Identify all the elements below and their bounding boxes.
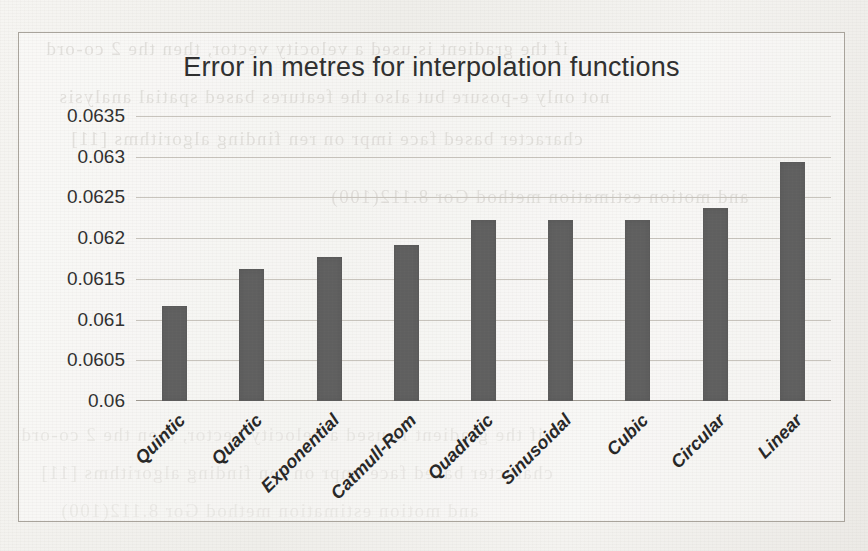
chart-frame: Error in metres for interpolation functi…: [18, 32, 845, 522]
bar: [162, 306, 187, 401]
y-axis-tick-label: 0.061: [77, 309, 125, 331]
x-axis-category-label: Quadratic: [424, 410, 498, 484]
bar-slot: Quartic: [213, 116, 290, 401]
y-axis-tick-label: 0.0605: [67, 349, 125, 371]
bar: [625, 220, 650, 401]
bar: [239, 269, 264, 401]
bar: [703, 208, 728, 401]
bar-slot: Catmull-Rom: [368, 116, 445, 401]
y-axis-tick-label: 0.06: [88, 390, 125, 412]
bar-slot: Cubic: [599, 116, 676, 401]
y-axis-tick-label: 0.0615: [67, 268, 125, 290]
bar-slot: Quadratic: [445, 116, 522, 401]
bar: [548, 220, 573, 401]
x-axis-category-label: Sinusoidal: [496, 410, 575, 489]
bar-slot: Circular: [677, 116, 754, 401]
bar-slot: Sinusoidal: [522, 116, 599, 401]
bar-slot: Linear: [754, 116, 831, 401]
bar: [471, 220, 496, 401]
x-axis-category-label: Linear: [754, 410, 807, 463]
plot-area: 0.060.06050.0610.06150.0620.06250.0630.0…: [136, 116, 831, 401]
x-axis-category-label: Quartic: [207, 410, 266, 469]
y-axis-tick-label: 0.062: [77, 227, 125, 249]
y-axis-tick-label: 0.063: [77, 146, 125, 168]
chart-title: Error in metres for interpolation functi…: [19, 52, 844, 83]
bar-series: QuinticQuarticExponentialCatmull-RomQuad…: [136, 116, 831, 401]
bar: [317, 257, 342, 401]
bar-slot: Quintic: [136, 116, 213, 401]
x-axis-category-label: Cubic: [603, 410, 653, 460]
bar-slot: Exponential: [290, 116, 367, 401]
x-axis-category-label: Quintic: [131, 410, 190, 469]
y-axis-tick-label: 0.0635: [67, 105, 125, 127]
x-axis-category-label: Circular: [667, 410, 730, 473]
bar: [780, 162, 805, 401]
bar: [394, 245, 419, 401]
y-axis-tick-label: 0.0625: [67, 186, 125, 208]
